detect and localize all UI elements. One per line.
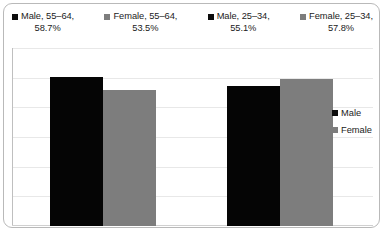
top-legend-item-line2: 58.7%	[21, 23, 74, 35]
right-legend-item-label: Female	[341, 125, 372, 135]
female-swatch-icon	[104, 14, 110, 20]
top-legend-item-label: Male, 25–34, 55.1%	[217, 11, 270, 34]
male-swatch-icon	[12, 14, 18, 20]
bar-female-25-34[interactable]	[280, 79, 333, 226]
bar-male-25-34[interactable]	[227, 86, 280, 226]
top-legend-item-male-25-34[interactable]: Male, 25–34, 55.1%	[208, 11, 270, 34]
bar-male-55-64[interactable]	[50, 77, 103, 226]
top-legend-item-female-25-34[interactable]: Female, 25–34, 57.8%	[300, 11, 373, 34]
top-legend-item-label: Female, 25–34, 57.8%	[309, 11, 373, 34]
top-legend-item-line2: 55.1%	[217, 23, 270, 35]
right-legend-item-female[interactable]: Female	[332, 125, 382, 135]
top-legend-item-female-55-64[interactable]: Female, 55–64, 53.5%	[104, 11, 177, 34]
top-legend: Male, 55–64, 58.7% Female, 55–64, 53.5% …	[4, 11, 381, 44]
top-legend-item-male-55-64[interactable]: Male, 55–64, 58.7%	[12, 11, 74, 34]
gridline	[12, 48, 373, 49]
top-legend-item-line1: Male, 25–34,	[217, 11, 270, 21]
chart-frame: Male, 55–64, 58.7% Female, 55–64, 53.5% …	[3, 3, 380, 228]
right-legend-item-label: Male	[341, 108, 361, 118]
male-swatch-icon	[332, 110, 338, 116]
female-swatch-icon	[300, 14, 306, 20]
right-legend: Male Female	[332, 108, 382, 142]
top-legend-item-line1: Female, 55–64,	[113, 11, 177, 21]
female-swatch-icon	[332, 127, 338, 133]
y-axis-line	[12, 48, 13, 226]
top-legend-item-line1: Female, 25–34,	[309, 11, 373, 21]
right-legend-item-male[interactable]: Male	[332, 108, 382, 118]
top-legend-item-label: Male, 55–64, 58.7%	[21, 11, 74, 34]
top-legend-item-label: Female, 55–64, 53.5%	[113, 11, 177, 34]
top-legend-item-line2: 57.8%	[309, 23, 373, 35]
plot-area	[12, 48, 373, 226]
top-legend-item-line1: Male, 55–64,	[21, 11, 74, 21]
bar-female-55-64[interactable]	[103, 90, 156, 226]
top-legend-item-line2: 53.5%	[113, 23, 177, 35]
male-swatch-icon	[208, 14, 214, 20]
